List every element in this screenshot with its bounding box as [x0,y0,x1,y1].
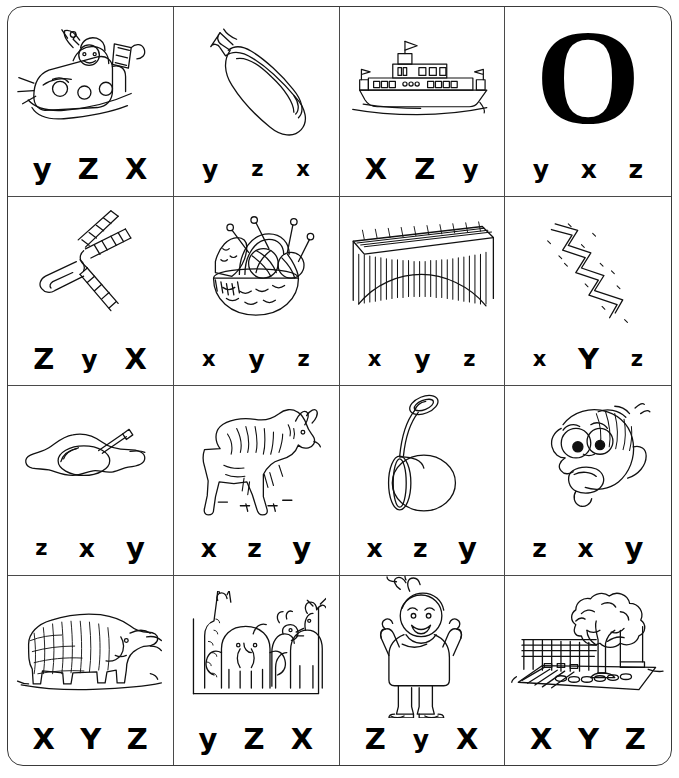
zebra-icon [174,386,339,529]
worksheet-cell: ZyX [8,197,174,387]
letter-choice-option[interactable]: x [578,536,595,561]
worksheet-grid: yZX yzx XZyOyxz [7,6,672,766]
letter-choice-option[interactable]: z [413,536,428,561]
worksheet-cell: yzx [174,7,340,197]
worksheet-cell: zxy [505,386,671,576]
letter-choice-row: yxz [505,150,671,196]
worksheet-cell: Oyxz [505,7,671,197]
santa-sleigh-icon [8,7,173,150]
letter-choice-option[interactable]: Y [578,725,600,754]
letter-choice-option[interactable]: x [296,159,310,180]
worksheet-cell: xzy [174,386,340,576]
xylophone-icon [340,197,505,340]
letter-choice-row: XZy [340,150,505,196]
letter-choice-option[interactable]: y [81,347,98,372]
cheering-boy-icon [340,576,505,720]
letter-choice-option[interactable]: X [530,725,553,754]
yard-tree-swing-icon [505,576,671,720]
letter-choice-row: xYz [505,339,671,385]
letter-choice-option[interactable]: y [458,534,477,563]
worksheet-cell: xzy [340,386,506,576]
letter-choice-option[interactable]: y [292,534,311,563]
letter-choice-row: xyz [340,339,505,385]
worksheet-cell: xyz [340,197,506,387]
letter-choice-option[interactable]: Z [625,725,647,754]
letter-choice-option[interactable]: X [456,725,479,754]
worksheet-cell: XYZ [8,576,174,766]
letter-choice-option[interactable]: z [463,349,476,370]
letter-choice-option[interactable]: z [628,157,643,182]
letter-choice-option[interactable]: y [248,347,265,372]
letter-choice-option[interactable]: Z [127,725,149,754]
letter-choice-option[interactable]: Y [80,725,102,754]
letter-choice-option[interactable]: x [79,536,96,561]
letter-choice-option[interactable]: y [414,347,431,372]
worksheet-cell: ZyX [340,576,506,766]
letter-choice-option[interactable]: x [202,349,216,370]
letter-choice-option[interactable]: z [532,536,547,561]
letter-choice-option[interactable]: y [413,727,430,752]
letter-choice-option[interactable]: z [247,536,262,561]
letter-choice-row: xyz [174,339,339,385]
letter-choice-option[interactable]: X [291,725,314,754]
letter-choice-row: xzy [174,529,339,575]
worksheet-cell: yZX [174,576,340,766]
worksheet-cell: XZy [340,7,506,197]
zigzag-icon [505,197,671,340]
letter-choice-row: ZyX [340,719,505,765]
letter-choice-option[interactable]: Z [33,345,55,374]
letter-choice-row: zxy [8,529,173,575]
letter-choice-option[interactable]: y [624,534,643,563]
letter-choice-option[interactable]: y [33,155,52,184]
worksheet-cell: yZX [8,7,174,197]
yak-icon [8,576,173,720]
letter-choice-row: zxy [505,529,671,575]
zipper-icon [8,197,173,340]
yarn-basket-icon [174,197,339,340]
letter-choice-option[interactable]: y [199,725,218,754]
letter-choice-option[interactable]: X [32,725,55,754]
letter-choice-option[interactable]: X [125,155,148,184]
letter-o-icon: O [505,7,671,150]
letter-choice-option[interactable]: z [251,159,264,180]
letter-choice-option[interactable]: z [631,349,644,370]
letter-choice-option[interactable]: Z [365,725,387,754]
letter-choice-option[interactable]: z [298,349,311,370]
letter-choice-row: xzy [340,529,505,575]
letter-choice-row: yZX [174,719,339,765]
letter-choice-option[interactable]: y [462,157,479,182]
worksheet-cell: xYz [505,197,671,387]
letter-choice-option[interactable]: y [202,157,219,182]
worksheet-cell: XYZ [505,576,671,766]
worksheet-cell: zxy [8,386,174,576]
worksheet-cell: xyz [174,197,340,387]
egg-yolk-icon [8,386,173,529]
yacht-icon [340,7,505,150]
letter-choice-option[interactable]: x [533,349,547,370]
letter-choice-option[interactable]: x [368,349,382,370]
displayed-letter: O [536,21,641,136]
letter-choice-option[interactable]: z [35,538,48,559]
letter-choice-option[interactable]: Z [414,155,436,184]
letter-choice-row: ZyX [8,339,173,385]
zucchini-icon [174,7,339,150]
letter-choice-row: yZX [8,150,173,196]
letter-choice-option[interactable]: Z [78,155,100,184]
letter-choice-row: yzx [174,150,339,196]
letter-choice-option[interactable]: Z [244,725,266,754]
yelling-face-icon [505,386,671,529]
letter-choice-option[interactable]: x [366,536,383,561]
letter-choice-row: XYZ [8,719,173,765]
letter-choice-option[interactable]: X [365,155,388,184]
letter-choice-option[interactable]: x [581,157,598,182]
letter-choice-option[interactable]: y [533,157,550,182]
letter-choice-option[interactable]: y [126,534,145,563]
letter-choice-row: XYZ [505,719,671,765]
letter-choice-option[interactable]: x [201,536,218,561]
yoyo-icon [340,386,505,529]
letter-choice-option[interactable]: Y [578,345,600,374]
zoo-animals-icon [174,576,339,720]
letter-choice-option[interactable]: X [125,345,148,374]
